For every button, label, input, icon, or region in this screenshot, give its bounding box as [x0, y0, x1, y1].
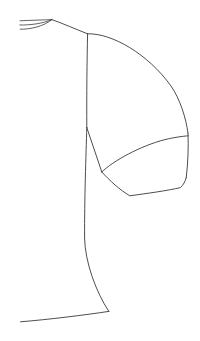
sketch-canvas: Line drawing of a short sleeve garment, … — [0, 0, 200, 341]
neckline-edge-upper-path — [20, 20, 52, 21]
armhole-seam-vertical-path — [87, 34, 88, 128]
hem-line-body-path — [21, 311, 109, 321]
shoulder-seam-path — [52, 20, 88, 34]
sketch-line-group — [20, 20, 188, 322]
armhole-seam-diagonal-path — [87, 128, 102, 172]
sleeve-hem-bottom-path — [102, 172, 186, 196]
side-seam-body-path — [85, 128, 109, 312]
garment-technical-sketch: Line drawing of a short sleeve garment, … — [0, 0, 200, 341]
sleeve-cap-outer-curve-path — [88, 34, 188, 133]
sleeve-side-edge-right-path — [186, 133, 188, 178]
sleeve-cuff-band-seam-path — [102, 136, 188, 172]
